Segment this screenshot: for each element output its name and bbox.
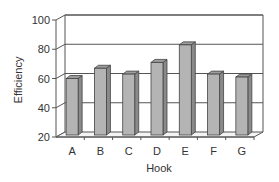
bar-C <box>123 71 139 135</box>
y-tick-label: 80 <box>38 43 50 55</box>
y-tick-label: 20 <box>38 131 50 143</box>
y-tick-label: 60 <box>38 73 50 85</box>
x-tick-label: E <box>182 145 189 157</box>
bar-chart: 20406080100 ABCDEFG Efficiency Hook <box>0 0 279 182</box>
bar-F <box>208 71 224 135</box>
x-tick-label: F <box>210 145 217 157</box>
x-tick-label: A <box>68 145 76 157</box>
y-axis-label: Efficiency <box>12 56 24 103</box>
x-tick-label: D <box>153 145 161 157</box>
bar-A <box>66 76 82 136</box>
y-tick-label: 40 <box>38 102 50 114</box>
bar-E <box>179 42 195 135</box>
bar-G <box>236 74 252 135</box>
x-tick-label: G <box>238 145 247 157</box>
bar-B <box>94 65 110 135</box>
x-axis-label: Hook <box>146 162 172 174</box>
y-axis: 20406080100 <box>32 14 56 143</box>
x-tick-label: C <box>125 145 133 157</box>
bar-D <box>151 59 167 135</box>
bars <box>66 42 252 135</box>
y-tick-label: 100 <box>32 14 50 26</box>
x-axis: ABCDEFG <box>56 137 254 157</box>
x-tick-label: B <box>97 145 104 157</box>
